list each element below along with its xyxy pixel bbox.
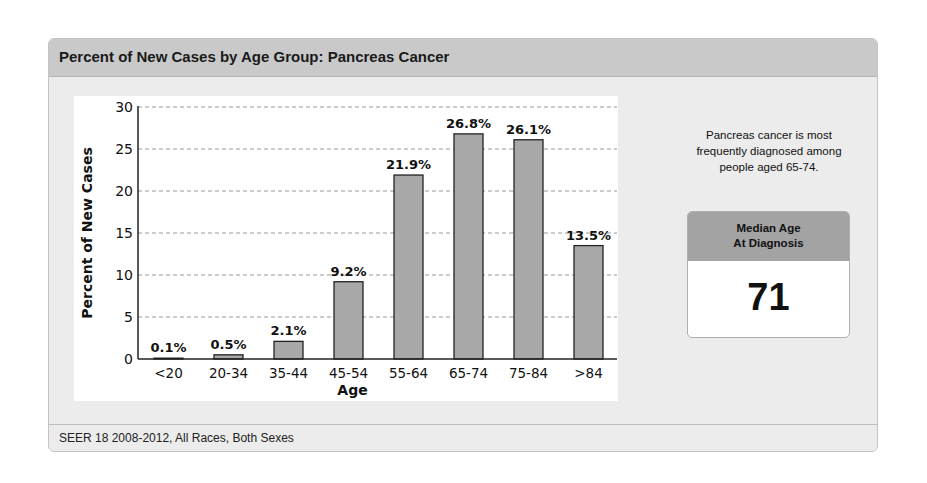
- bar-value-label: 2.1%: [270, 323, 306, 338]
- bar-value-label: 26.8%: [446, 116, 491, 131]
- x-tick-label: >84: [574, 365, 603, 381]
- x-tick-label: 65-74: [449, 365, 488, 381]
- chart-panel: Percent of New Cases by Age Group: Pancr…: [48, 38, 878, 452]
- bar-value-label: 21.9%: [386, 157, 431, 172]
- y-tick-label: 0: [124, 351, 133, 367]
- chart-area: 0510152025300.1%<200.5%20-342.1%35-449.2…: [74, 96, 618, 401]
- bar: [274, 341, 303, 359]
- x-axis-title: Age: [337, 382, 367, 398]
- bar-value-label: 9.2%: [330, 264, 366, 279]
- bar-value-label: 0.5%: [210, 337, 246, 352]
- median-age-label: Median Age At Diagnosis: [688, 212, 849, 261]
- y-tick-label: 15: [115, 225, 133, 241]
- data-source-note: SEER 18 2008-2012, All Races, Both Sexes: [59, 431, 294, 445]
- panel-title: Percent of New Cases by Age Group: Pancr…: [59, 48, 449, 65]
- median-label-line1: Median Age: [688, 221, 849, 236]
- x-tick-label: 55-64: [389, 365, 428, 381]
- y-axis-title: Percent of New Cases: [79, 147, 95, 318]
- bar-chart: 0510152025300.1%<200.5%20-342.1%35-449.2…: [74, 96, 618, 401]
- y-tick-label: 20: [115, 183, 133, 199]
- x-tick-label: 35-44: [269, 365, 308, 381]
- panel-footer: SEER 18 2008-2012, All Races, Both Sexes: [49, 424, 877, 451]
- y-tick-label: 30: [115, 99, 133, 115]
- x-tick-label: 75-84: [509, 365, 548, 381]
- summary-note: Pancreas cancer is most frequently diagn…: [684, 127, 854, 175]
- bar: [334, 282, 363, 359]
- y-tick-label: 25: [115, 141, 133, 157]
- x-tick-label: 20-34: [209, 365, 248, 381]
- bar: [394, 175, 423, 359]
- bar-value-label: 26.1%: [506, 122, 551, 137]
- bar-value-label: 0.1%: [150, 340, 186, 355]
- bar-value-label: 13.5%: [566, 228, 611, 243]
- y-tick-label: 10: [115, 267, 133, 283]
- panel-header: Percent of New Cases by Age Group: Pancr…: [49, 39, 877, 77]
- x-tick-label: 45-54: [329, 365, 368, 381]
- median-age-card: Median Age At Diagnosis 71: [687, 211, 850, 338]
- bar: [574, 246, 603, 359]
- bar: [454, 134, 483, 359]
- bar: [514, 140, 543, 359]
- median-label-line2: At Diagnosis: [688, 236, 849, 251]
- median-age-value: 71: [688, 276, 849, 319]
- x-tick-label: <20: [154, 365, 183, 381]
- y-tick-label: 5: [124, 309, 133, 325]
